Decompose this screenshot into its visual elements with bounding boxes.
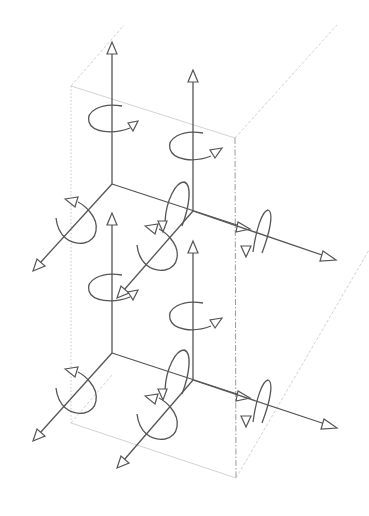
upper-right-node bbox=[117, 70, 336, 298]
x-arrow-head-icon bbox=[321, 419, 337, 429]
y-rotation-arrow-icon bbox=[145, 224, 158, 234]
z-arrow-head-icon bbox=[188, 70, 198, 82]
upper-left-node bbox=[33, 42, 250, 271]
z-rotation-arc-icon bbox=[170, 132, 211, 160]
z-arrow-head-icon bbox=[107, 213, 117, 225]
y-arrow-head-icon bbox=[117, 286, 129, 298]
y-arrow-head-icon bbox=[33, 259, 45, 271]
x-axis bbox=[193, 380, 325, 424]
x-axis bbox=[112, 184, 240, 226]
x-rotation-arc-icon-2 bbox=[253, 210, 271, 253]
lower-right-node bbox=[117, 241, 337, 468]
y-axis bbox=[40, 184, 112, 263]
z-rotation-arrow-icon bbox=[210, 148, 222, 158]
box-right-edge bbox=[235, 138, 236, 478]
z-rotation-arc-icon bbox=[89, 274, 130, 301]
box-back-right-edge bbox=[235, 25, 337, 138]
lower-left-node bbox=[33, 213, 250, 441]
z-rotation-arc-icon bbox=[89, 105, 130, 132]
y-arrow-head-icon bbox=[117, 456, 129, 468]
y-axis bbox=[40, 353, 112, 433]
dof-diagram bbox=[0, 0, 369, 516]
x-axis bbox=[193, 211, 325, 256]
x-rotation-arrow-icon-2 bbox=[241, 246, 251, 257]
z-rotation-arrow-icon bbox=[210, 318, 222, 328]
box-top-front-edge bbox=[71, 86, 235, 138]
z-rotation-arrow-icon bbox=[128, 121, 138, 131]
z-rotation-arc-icon bbox=[170, 302, 211, 330]
y-arrow-head-icon bbox=[33, 429, 45, 441]
y-rotation-arrow-icon bbox=[145, 394, 158, 404]
z-arrow-head-icon bbox=[188, 241, 198, 253]
y-rotation-arc-icon bbox=[137, 398, 177, 439]
box-inner-diagonal bbox=[71, 375, 112, 423]
box-back-left-edge bbox=[71, 25, 124, 86]
z-rotation-arrow-icon bbox=[128, 290, 138, 300]
x-arrow-head-icon bbox=[320, 251, 336, 261]
x-rotation-arrow-icon-2 bbox=[241, 416, 251, 427]
z-arrow-head-icon bbox=[107, 42, 117, 54]
box-bottom-front-edge bbox=[71, 423, 236, 478]
box-back-bottom-edge bbox=[236, 250, 369, 478]
y-rotation-arrow-icon bbox=[65, 367, 78, 377]
